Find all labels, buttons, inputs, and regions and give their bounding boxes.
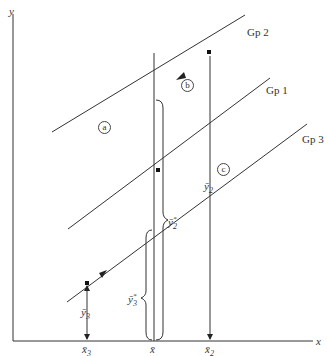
marker-a: a xyxy=(98,121,111,134)
gp3-mean-dot xyxy=(85,281,89,285)
y2-adjusted-brace xyxy=(156,100,168,340)
gp1-mean-dot xyxy=(156,168,160,172)
y3-label: ȳ3 xyxy=(81,307,90,321)
y-axis-label: y xyxy=(9,6,14,17)
xbar-tick-label: x̄ xyxy=(150,344,155,355)
gp3-label: Gp 3 xyxy=(302,134,324,145)
gp1-regression-line xyxy=(68,78,270,229)
gp2-label: Gp 2 xyxy=(247,27,269,38)
marker-c: c xyxy=(217,163,230,176)
x2-tick-label: x̄2 xyxy=(205,344,214,356)
gp2-mean-dot xyxy=(207,50,211,54)
x3-tick-label: x̄3 xyxy=(82,344,91,356)
y2-adjusted-label: ȳ2* xyxy=(168,216,176,231)
y2-label: ȳ2 xyxy=(204,181,213,195)
gp1-label: Gp 1 xyxy=(266,85,288,96)
gp2-regression-line xyxy=(52,15,245,132)
diagram-canvas xyxy=(0,0,327,356)
marker-b: b xyxy=(181,79,194,92)
x-axis-label: x xyxy=(316,336,321,347)
y3-adjusted-label: ȳ3* xyxy=(128,293,136,308)
